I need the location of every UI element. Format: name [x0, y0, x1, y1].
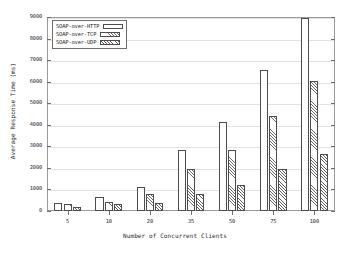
x-axis-tick-mark: [150, 211, 151, 215]
legend-item: SOAP-over-HTTP: [56, 23, 123, 30]
y-axis-tick-label: 7000: [0, 57, 42, 62]
y-axis-title: Average Response Time (ms): [9, 56, 17, 166]
y-axis-tick-label: 6000: [0, 79, 42, 84]
bar: [320, 154, 328, 211]
x-axis-tick-label: 100: [310, 218, 319, 224]
bar: [187, 169, 195, 211]
y-axis-tick-label: 0: [0, 208, 42, 213]
bar: [95, 197, 103, 211]
x-axis-tick-mark: [273, 211, 274, 215]
y-axis-tick-label: 8000: [0, 36, 42, 41]
x-axis-title: Number of Concurrent Clients: [0, 232, 350, 240]
legend-item: SOAP-over-TCP: [56, 31, 123, 38]
bar: [301, 18, 309, 211]
bar: [219, 122, 227, 211]
bar: [310, 81, 318, 211]
x-axis-tick-mark: [68, 211, 69, 215]
bar: [146, 194, 154, 211]
y-axis-tick-label: 4000: [0, 122, 42, 127]
y-axis-tick-label: 2000: [0, 165, 42, 170]
x-axis-tick-label: 10: [106, 218, 112, 224]
legend-swatch: [100, 32, 120, 37]
bar: [64, 204, 72, 211]
y-axis-tick-label: 5000: [0, 100, 42, 105]
bar: [228, 150, 236, 211]
bar: [178, 150, 186, 211]
bar: [137, 187, 145, 211]
x-axis-tick-label: 75: [270, 218, 276, 224]
bar: [278, 169, 286, 211]
y-axis-tick-label: 9000: [0, 14, 42, 19]
legend-label: SOAP-over-TCP: [56, 31, 96, 38]
legend: SOAP-over-HTTPSOAP-over-TCPSOAP-over-UDP: [52, 20, 127, 49]
x-axis-tick-label: 20: [147, 218, 153, 224]
legend-item: SOAP-over-UDP: [56, 39, 123, 46]
y-axis-tick-label: 1000: [0, 187, 42, 192]
bar: [155, 203, 163, 211]
y-axis-tick-mark: [331, 211, 335, 212]
x-axis-tick-label: 50: [229, 218, 235, 224]
x-axis-tick-mark: [109, 211, 110, 215]
x-axis-tick-label: 35: [188, 218, 194, 224]
x-axis-tick-mark: [232, 211, 233, 215]
x-axis-tick-mark: [191, 211, 192, 215]
y-axis-tick-label: 3000: [0, 144, 42, 149]
x-axis-tick-label: 5: [66, 218, 69, 224]
bar: [73, 207, 81, 211]
bar-chart: 0100020003000400050006000700080009000 51…: [0, 0, 350, 253]
legend-label: SOAP-over-HTTP: [56, 23, 99, 30]
bar: [269, 116, 277, 211]
bar: [260, 70, 268, 211]
legend-swatch: [100, 40, 120, 45]
bar: [54, 203, 62, 211]
bar: [114, 204, 122, 212]
legend-label: SOAP-over-UDP: [56, 39, 96, 46]
bar: [196, 194, 204, 211]
legend-swatch: [103, 24, 123, 29]
x-axis-tick-mark: [314, 211, 315, 215]
bar: [237, 185, 245, 212]
y-axis-tick-mark: [47, 211, 51, 212]
bar: [105, 202, 113, 211]
